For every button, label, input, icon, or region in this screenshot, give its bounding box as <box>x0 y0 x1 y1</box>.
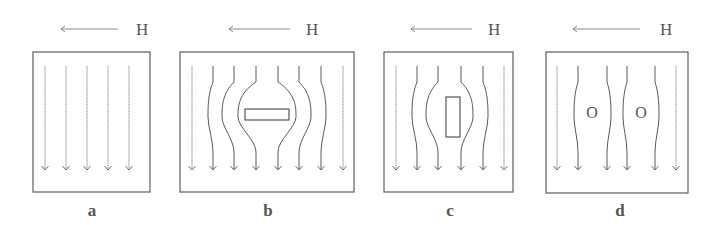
specimen-inclusion <box>245 109 289 120</box>
panel-a: Ha <box>33 20 150 220</box>
field-symbol-label: H <box>136 20 148 39</box>
panel-b: Hb <box>180 20 354 220</box>
hole-marker: O <box>586 104 598 121</box>
panel-label: b <box>263 201 272 220</box>
panel-d: HOOd <box>546 20 688 220</box>
magnetic-field-diagram: Ha Hb Hc HOOd <box>0 0 717 225</box>
sample-frame <box>180 52 354 192</box>
field-symbol-label: H <box>660 20 672 39</box>
sample-frame <box>33 52 150 192</box>
panel-label: c <box>446 201 454 220</box>
panel-c: Hc <box>384 20 513 220</box>
sample-frame <box>546 52 688 193</box>
hole-marker: O <box>635 104 647 121</box>
field-symbol-label: H <box>306 20 318 39</box>
specimen-inclusion <box>446 97 460 137</box>
panel-label: d <box>615 201 625 220</box>
panel-label: a <box>88 201 97 220</box>
field-symbol-label: H <box>488 20 500 39</box>
